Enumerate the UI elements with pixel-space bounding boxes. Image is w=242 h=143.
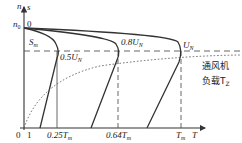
fan-label-line1: 通风机 [202,62,229,71]
curve-label-08un: 0.8UN [121,38,143,50]
motor-characteristic-diagram: n s n0 0 Sm 0.5UN 0.8UN UN 通风机 负载TZ 0 1 … [0,0,242,143]
s0-label: 0 [27,20,32,29]
fan-label-line2: 负载TZ [202,77,230,88]
diagram-canvas [0,0,242,143]
x-one-label: 1 [27,131,32,140]
curve-label-05un: 0.5UN [60,53,82,65]
curve-un [24,28,181,128]
curve-08un [24,28,119,128]
tick-tm: Tm [176,131,185,143]
tick-025tm: 0.25Tm [47,131,72,143]
slip-max-label: Sm [29,38,38,50]
origin-label: 0 [16,131,21,140]
axis-label-s: s [27,3,31,12]
curve-label-un: UN [183,41,194,53]
axis-label-t: T [192,131,197,140]
axis-label-n: n [17,2,22,11]
tick-064tm: 0.64Tm [106,131,131,143]
n0-label: n0 [13,20,21,32]
